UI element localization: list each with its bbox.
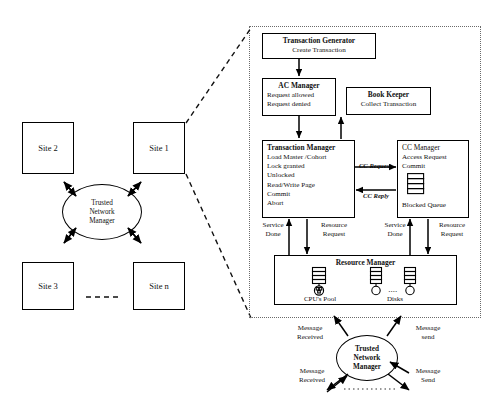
bottom-network-connectors <box>0 0 486 403</box>
diagram-canvas: Site 2 Site 1 Site 3 Site n Trusted Netw… <box>0 0 486 403</box>
